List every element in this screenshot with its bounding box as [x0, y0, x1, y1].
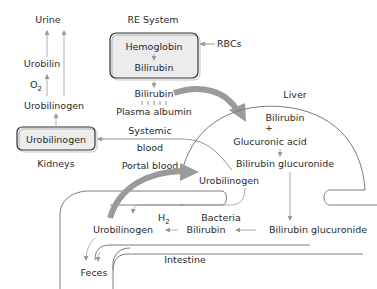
kidneys-label: Kidneys: [37, 158, 74, 169]
h2-label: H2: [158, 212, 170, 226]
intestine-bilirubin: Bilirubin: [186, 224, 225, 235]
glucuronic-acid-label: Glucuronic acid: [233, 136, 306, 147]
rbcs-label: RBCs: [217, 38, 242, 49]
bilirubin-metabolism-diagram: RE System Hemoglobin Bilirubin RBCs Bili…: [0, 0, 377, 289]
portal-blood-big-arrow: [110, 171, 182, 218]
kidney-urobilinogen-label: Urobilinogen: [24, 100, 84, 111]
systemic-label: Systemic: [128, 125, 171, 136]
systemic-branch-line: [222, 158, 232, 170]
liver-bile-duct-right: [324, 190, 377, 205]
intestine-wall-curve: [95, 245, 110, 260]
urobilinogen-to-feces-arrow-1: [86, 238, 95, 260]
intestine-glucuronide: Bilirubin glucuronide: [269, 224, 367, 235]
o2-label: O2: [30, 79, 42, 93]
liver-plus: +: [265, 122, 273, 133]
liver-glucuronide-label: Bilirubin glucuronide: [236, 158, 334, 169]
urine-label: Urine: [35, 14, 61, 25]
bacteria-label: Bacteria: [201, 212, 241, 223]
plasma-albumin-label: Plasma albumin: [116, 106, 192, 117]
intestine-label: Intestine: [164, 254, 206, 265]
liver-label: Liver: [283, 89, 306, 100]
feces-label: Feces: [81, 267, 108, 278]
portal-blood-arrowhead: [180, 163, 199, 181]
intestine-urobilinogen: Urobilinogen: [93, 224, 153, 235]
plasma-bilirubin-label: Bilirubin: [134, 88, 173, 99]
hemoglobin-label: Hemoglobin: [125, 41, 182, 52]
urobilinogen-to-feces-arrow-2: [98, 252, 100, 261]
albumin-binding-ticks: [142, 101, 166, 105]
kidney-box-urobilinogen: Urobilinogen: [26, 134, 86, 145]
re-bilirubin-label: Bilirubin: [134, 62, 173, 73]
intestine-upper-urobilinogen: Urobilinogen: [199, 175, 259, 186]
urobilin-label: Urobilin: [24, 58, 60, 69]
systemic-blood-label: blood: [137, 142, 163, 153]
bacteria-to-h2-arrow: [133, 188, 245, 213]
re-system-title: RE System: [127, 14, 178, 25]
